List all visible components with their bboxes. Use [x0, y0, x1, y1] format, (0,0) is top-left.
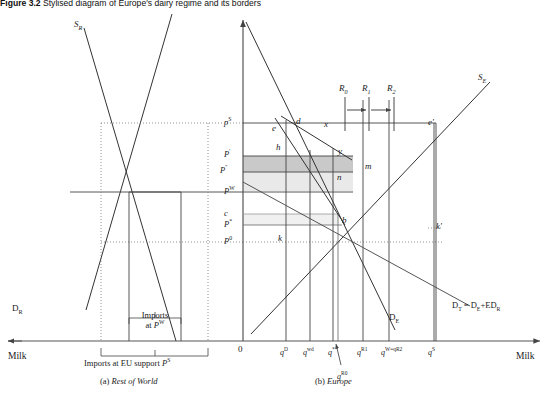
total-demand-label: DT = DE+EDR	[452, 301, 500, 312]
qty-label-1: qwd	[303, 347, 314, 357]
point-label-b: b	[342, 216, 347, 225]
supply-curve-eu-label: SE	[478, 73, 486, 84]
supply-curve-row-label: SR	[74, 20, 82, 31]
point-label-m: m	[365, 162, 372, 171]
point-label-n: n	[337, 173, 342, 182]
point-label-x: x	[324, 120, 328, 129]
point-label-d: d	[296, 117, 301, 126]
diagram-svg	[0, 0, 557, 396]
qty-label-2: q*	[328, 347, 335, 357]
price-label-Pst: P*	[224, 219, 232, 228]
quota-rail-label-R0: R0	[339, 84, 348, 95]
left-axis-label: Milk	[8, 352, 26, 362]
price-label-Ppp: P''	[220, 165, 227, 174]
supply-curve-row	[84, 28, 176, 341]
price-label-c: c	[224, 208, 228, 217]
point-label-y: y	[338, 147, 342, 156]
point-label-k: k	[278, 234, 282, 243]
point-label-k-prime: k'	[436, 222, 442, 231]
figure-canvas: Figure 3.2 Stylised diagram of Europe's …	[0, 0, 557, 396]
origin-label: 0	[238, 345, 243, 354]
imports-pw-label: Imports at PW	[128, 311, 182, 329]
price-label-PW: PW	[224, 186, 235, 195]
qty-label-4: qW=qR2	[381, 347, 402, 357]
right-axis-label: Milk	[516, 352, 534, 362]
point-label-h: h	[276, 143, 281, 152]
panel-a-caption: (a) Rest of World	[100, 377, 158, 386]
price-label-Pp: P'	[224, 149, 230, 158]
shade-band-c	[243, 214, 338, 225]
qR0-pointer	[336, 344, 341, 365]
point-label-e: e	[272, 124, 276, 133]
imports-ps-label: Imports at EU support PS	[84, 358, 170, 367]
point-label-e-prime: e'	[428, 118, 434, 127]
shade-band-upper	[243, 156, 353, 172]
quota-rail-label-R1: R1	[362, 84, 371, 95]
quota-rail-label-R2: R2	[387, 84, 396, 95]
qty-label-qR0: qR0	[337, 371, 347, 381]
qty-label-0: qD	[280, 347, 288, 357]
qty-label-3: qR1	[357, 347, 367, 357]
demand-curve-row-label: DR	[12, 304, 23, 315]
qty-label-5: qS	[428, 347, 435, 357]
price-label-P0: P0	[224, 236, 232, 245]
demand-curve-eu-label: DE	[389, 313, 399, 324]
price-label-pS: pS	[224, 117, 231, 126]
